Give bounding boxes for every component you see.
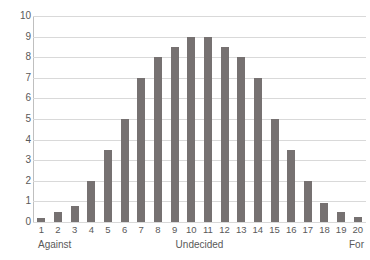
bar-slot: [266, 16, 283, 222]
bar[interactable]: [71, 206, 79, 222]
bar[interactable]: [54, 212, 62, 222]
x-axis-tick-label: 14: [250, 225, 267, 235]
bar[interactable]: [287, 150, 295, 222]
bar-slot: [33, 16, 50, 222]
x-axis-tick-label: 18: [316, 225, 333, 235]
bar[interactable]: [237, 57, 245, 222]
bar-chart: 109876543210 123456789101112131415161718…: [0, 0, 370, 260]
plot-area: [33, 16, 366, 222]
bar-slot: [133, 16, 150, 222]
y-axis-tick-label: 4: [3, 135, 31, 145]
x-axis-line: [33, 222, 366, 223]
x-axis-tick-label: 9: [166, 225, 183, 235]
bar[interactable]: [154, 57, 162, 222]
bar-slot: [233, 16, 250, 222]
bar-slot: [150, 16, 167, 222]
x-axis-tick-label: 7: [133, 225, 150, 235]
x-axis-tick-label: 6: [116, 225, 133, 235]
bar[interactable]: [221, 47, 229, 222]
caption-for: For: [349, 240, 364, 250]
bar[interactable]: [187, 37, 195, 222]
bar-slot: [250, 16, 267, 222]
bar-slot: [50, 16, 67, 222]
bar-slot: [200, 16, 217, 222]
bar[interactable]: [37, 218, 45, 222]
x-axis-tick-label: 16: [283, 225, 300, 235]
bar[interactable]: [137, 78, 145, 222]
caption-undecided: Undecided: [176, 240, 224, 250]
bar-slot: [66, 16, 83, 222]
x-axis-tick-label: 15: [266, 225, 283, 235]
bar[interactable]: [204, 37, 212, 222]
y-axis-tick-label: 1: [3, 196, 31, 206]
axis-captions: Against Undecided For: [33, 240, 366, 256]
bar-slot: [166, 16, 183, 222]
x-axis-tick-label: 3: [66, 225, 83, 235]
bar-series: [33, 16, 366, 222]
bar-slot: [216, 16, 233, 222]
y-axis-tick-label: 10: [3, 11, 31, 21]
y-axis-tick-label: 5: [3, 114, 31, 124]
y-axis-tick-label: 3: [3, 155, 31, 165]
bar-slot: [349, 16, 366, 222]
bar[interactable]: [121, 119, 129, 222]
y-axis-tick-label: 2: [3, 176, 31, 186]
x-axis-tick-label: 2: [50, 225, 67, 235]
bar[interactable]: [104, 150, 112, 222]
x-axis-tick-label: 19: [333, 225, 350, 235]
bar[interactable]: [320, 203, 328, 222]
bar-slot: [83, 16, 100, 222]
x-axis-tick-label: 8: [150, 225, 167, 235]
x-axis-tick-label: 5: [100, 225, 117, 235]
x-axis-tick-label: 17: [300, 225, 317, 235]
x-axis-tick-label: 20: [349, 225, 366, 235]
x-axis-tick-label: 13: [233, 225, 250, 235]
bar[interactable]: [337, 212, 345, 222]
y-axis-tick-label: 9: [3, 32, 31, 42]
bar-slot: [116, 16, 133, 222]
y-axis-tick-label: 8: [3, 52, 31, 62]
bar[interactable]: [254, 78, 262, 222]
bar-slot: [100, 16, 117, 222]
bar[interactable]: [304, 181, 312, 222]
y-axis-tick-labels: 109876543210: [0, 16, 31, 222]
bar[interactable]: [171, 47, 179, 222]
x-axis-tick-label: 11: [200, 225, 217, 235]
bar[interactable]: [354, 217, 362, 222]
caption-against: Against: [38, 240, 71, 250]
x-axis-tick-labels: 1234567891011121314151617181920: [33, 225, 366, 235]
x-axis-tick-label: 1: [33, 225, 50, 235]
bar[interactable]: [271, 119, 279, 222]
bar-slot: [183, 16, 200, 222]
x-axis-tick-label: 4: [83, 225, 100, 235]
y-axis-tick-label: 7: [3, 73, 31, 83]
bar-slot: [283, 16, 300, 222]
bar-slot: [333, 16, 350, 222]
x-axis-tick-label: 10: [183, 225, 200, 235]
y-axis-tick-label: 0: [3, 217, 31, 227]
bar-slot: [300, 16, 317, 222]
bar-slot: [316, 16, 333, 222]
y-axis-tick-label: 6: [3, 93, 31, 103]
bar[interactable]: [87, 181, 95, 222]
x-axis-tick-label: 12: [216, 225, 233, 235]
